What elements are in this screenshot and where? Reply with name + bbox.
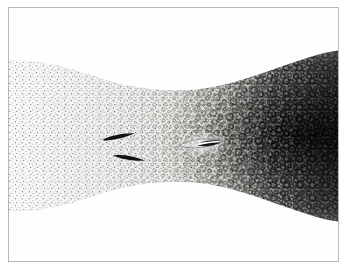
tissue-band [9,8,338,261]
plate-root [0,0,348,272]
plate-frame [8,7,339,262]
figure-stage [9,8,338,261]
band-vertical-vignette [9,8,338,261]
tissue-band-svg [9,8,338,261]
inclusion-right [177,132,229,156]
